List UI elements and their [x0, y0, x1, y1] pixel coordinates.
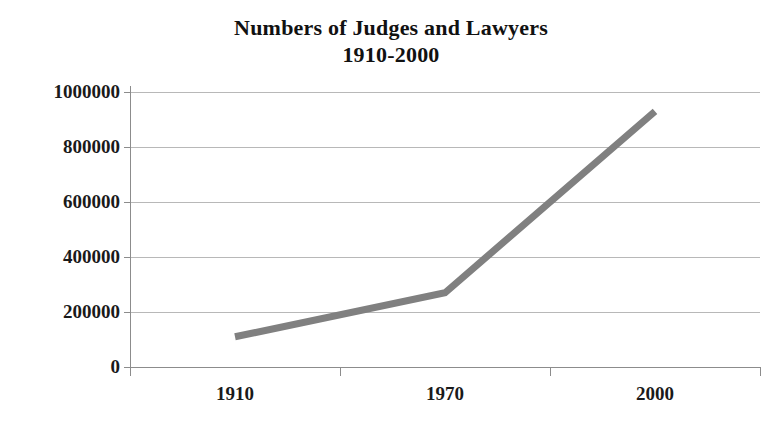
- chart-container: Numbers of Judges and Lawyers 1910-2000 …: [0, 0, 782, 436]
- series-line-judges-and-lawyers: [235, 111, 655, 336]
- series-layer: [0, 0, 782, 436]
